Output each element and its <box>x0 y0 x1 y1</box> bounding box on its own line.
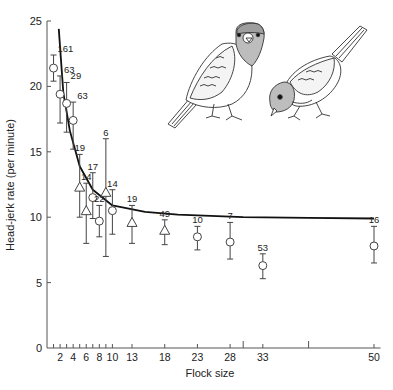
x-axis-label: Flock size <box>186 367 235 379</box>
y-tick-label: 25 <box>30 15 42 27</box>
circle-marker <box>193 233 201 241</box>
circle-marker <box>370 242 378 250</box>
y-tick-label: 10 <box>30 211 42 223</box>
y-axis-label: Head-jerk rate (per minute) <box>4 119 16 251</box>
sample-size-label: 14 <box>81 171 92 182</box>
sample-size-label: 17 <box>87 161 98 172</box>
feeding-bird-illustration <box>270 26 367 120</box>
sample-size-label: 10 <box>192 214 203 225</box>
x-tick-label: 4 <box>70 351 76 363</box>
triangle-data-point: 49 <box>159 208 170 245</box>
triangle-marker <box>81 206 91 215</box>
circle-data-point: 7 <box>226 210 234 259</box>
sample-size-label: 53 <box>258 242 269 253</box>
circle-data-point: 16 <box>369 214 380 263</box>
x-tick-label: 10 <box>107 351 119 363</box>
y-tick-label: 15 <box>30 146 42 158</box>
triangle-data-point: 19 <box>127 193 138 243</box>
circle-marker <box>69 116 77 124</box>
y-tick-label: 5 <box>36 277 42 289</box>
y-tick-label: 0 <box>36 342 42 354</box>
sample-size-label: 49 <box>159 208 170 219</box>
circle-marker <box>50 64 58 72</box>
sample-size-label: 6 <box>103 127 108 138</box>
sample-size-label: 161 <box>58 43 74 54</box>
circle-data-point: 22 <box>94 193 105 236</box>
x-tick-label: 50 <box>368 351 380 363</box>
x-tick-label: 33 <box>257 351 269 363</box>
x-tick-label: 2 <box>57 351 63 363</box>
triangle-data-point: 14 <box>81 171 92 243</box>
sample-size-label: 63 <box>77 90 88 101</box>
circle-data-point: 53 <box>258 242 269 279</box>
circle-marker <box>259 262 267 270</box>
circle-marker <box>108 207 116 215</box>
circle-marker <box>226 238 234 246</box>
sample-size-label: 14 <box>107 178 118 189</box>
sample-size-label: 29 <box>71 70 82 81</box>
sample-size-label: 7 <box>227 210 232 221</box>
triangle-marker <box>75 182 85 191</box>
x-tick-label: 8 <box>96 351 102 363</box>
circle-marker <box>63 99 71 107</box>
sample-size-label: 19 <box>127 193 138 204</box>
triangle-marker <box>160 225 170 234</box>
sample-size-label: 16 <box>369 214 380 225</box>
circle-marker <box>95 217 103 225</box>
triangle-data-point: 6 <box>101 127 111 257</box>
triangle-marker <box>127 217 137 226</box>
sample-size-label: 19 <box>74 142 85 153</box>
x-tick-label: 28 <box>224 351 236 363</box>
x-tick-label: 13 <box>126 351 138 363</box>
flock-size-chart: 0510152025246810131823283350 16163296317… <box>0 0 393 390</box>
circle-data-point: 10 <box>192 214 203 250</box>
x-tick-label: 23 <box>192 351 204 363</box>
x-tick-label: 18 <box>159 351 171 363</box>
circle-marker <box>56 90 64 98</box>
alert-bird-illustration <box>168 23 264 128</box>
y-tick-label: 20 <box>30 80 42 92</box>
x-tick-label: 6 <box>83 351 89 363</box>
